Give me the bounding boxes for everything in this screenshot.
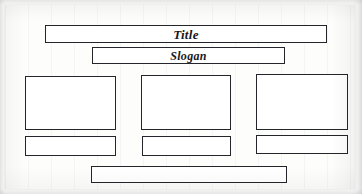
caption-box-left[interactable] [25,136,116,156]
title-label: Title [173,28,199,41]
title-bar[interactable]: Title [45,25,327,43]
caption-box-middle[interactable] [142,136,231,156]
screenshot-canvas: Title Slogan [0,0,362,194]
caption-box-right[interactable] [256,135,348,154]
paper-sheet: Title Slogan [5,5,355,189]
footer-bar[interactable] [91,166,287,183]
content-box-left[interactable] [25,76,116,130]
content-box-right[interactable] [256,74,348,130]
slogan-bar[interactable]: Slogan [92,47,285,64]
content-box-middle[interactable] [141,75,231,130]
slogan-label: Slogan [170,50,206,62]
